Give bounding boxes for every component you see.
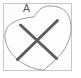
region-a-label: A bbox=[23, 2, 30, 14]
diagram-drawing bbox=[0, 0, 81, 78]
figure-canvas: A bbox=[0, 0, 81, 78]
x-mark-icon bbox=[18, 21, 58, 60]
